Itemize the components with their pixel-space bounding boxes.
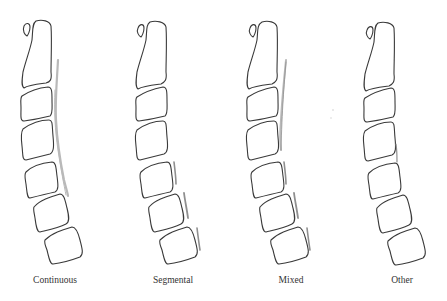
stray-mark	[330, 117, 331, 118]
ossification-localized	[396, 144, 397, 162]
vertebra-c2	[136, 21, 166, 89]
panel-label-mixed: Mixed	[279, 275, 304, 285]
vertebra-c2	[364, 22, 394, 91]
vertebra-c2	[22, 20, 51, 88]
vertebra-c5	[25, 162, 58, 198]
vertebra-c3	[364, 88, 395, 122]
spine-mixed	[246, 21, 333, 264]
atlas-arch	[137, 25, 144, 37]
vertebra-c5	[368, 163, 401, 199]
vertebra-c4	[363, 122, 395, 161]
stray-mark	[332, 109, 334, 111]
vertebra-c3	[136, 87, 167, 121]
ossification-segment-c6	[184, 193, 188, 218]
vertebra-c6	[377, 195, 412, 233]
vertebra-c6	[260, 194, 295, 232]
cervical-spine-ossification-diagram	[0, 0, 447, 301]
atlas-arch	[366, 27, 373, 39]
atlas-arch	[249, 25, 256, 37]
vertebra-c5	[251, 162, 284, 198]
vertebra-c3	[21, 87, 52, 121]
vertebra-c6	[149, 194, 184, 232]
vertebra-c4	[21, 120, 53, 160]
vertebra-c3	[247, 87, 278, 121]
panel-label-other: Other	[391, 275, 413, 285]
spine-continuous	[21, 20, 83, 264]
vertebra-c5	[140, 162, 173, 198]
vertebra-c7	[388, 228, 426, 265]
atlas-arch	[23, 23, 30, 36]
vertebra-c7	[160, 227, 198, 264]
vertebra-c6	[34, 194, 69, 232]
spine-other	[330, 22, 425, 265]
ossification-segment-c5	[284, 162, 286, 184]
panel-label-continuous: Continuous	[33, 275, 77, 285]
vertebra-c4	[246, 121, 278, 160]
ossification-segment-c5	[174, 162, 176, 184]
vertebra-c4	[135, 121, 167, 160]
panel-label-segmental: Segmental	[153, 275, 193, 285]
spine-segmental	[135, 21, 200, 264]
vertebra-c7	[45, 227, 83, 264]
vertebra-c7	[271, 227, 309, 264]
ossification-segment-c7	[197, 228, 200, 250]
vertebra-c2	[247, 21, 277, 89]
